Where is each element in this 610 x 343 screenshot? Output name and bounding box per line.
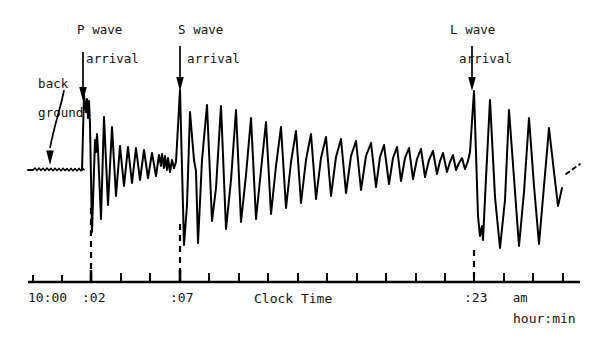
trace-l-wave xyxy=(468,91,562,248)
background-pointer-arrow-icon xyxy=(46,90,64,165)
trace-s-wave xyxy=(174,90,468,245)
axis-ticks xyxy=(33,270,563,282)
seismogram-figure: back ground P wave arrival S wave arriva… xyxy=(0,0,610,343)
seismogram-canvas xyxy=(0,0,610,343)
trace-p-wave xyxy=(82,95,174,232)
trace-background-noise xyxy=(33,168,84,171)
trace-continuation-dashed xyxy=(566,164,580,174)
s-wave-pointer-arrow-icon xyxy=(176,46,184,91)
l-wave-pointer-arrow-icon xyxy=(468,46,476,91)
seismic-trace xyxy=(28,90,580,248)
time-axis xyxy=(28,270,580,282)
marker-lines xyxy=(91,208,474,282)
p-wave-pointer-arrow-icon xyxy=(79,52,87,101)
